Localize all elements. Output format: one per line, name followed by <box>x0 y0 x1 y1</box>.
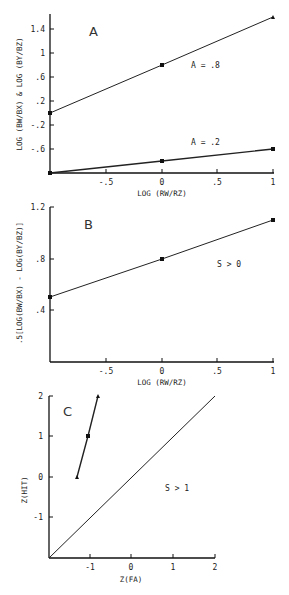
tick-label: 0 <box>160 178 165 187</box>
panel-b: 1.2 .8 .4 -.5 0 .5 1 LOG (RW/RZ) .5[LOG(… <box>15 203 276 387</box>
panel-a: 1.4 1 .6 .2 -.2 -.6 -.5 0 .5 1 LOG (RW/R… <box>15 14 276 198</box>
tick-label: 1.2 <box>31 203 46 212</box>
panel-c-x-label: Z(FA) <box>120 575 143 584</box>
data-point <box>271 218 275 222</box>
tick-label: 1.4 <box>31 25 46 34</box>
label-s-gt-1: S > 1 <box>165 484 189 493</box>
tick-label: .2 <box>35 97 45 106</box>
tick-label: -.2 <box>31 121 46 130</box>
tick-label: 1 <box>38 432 43 441</box>
tick-label: -.5 <box>99 178 114 187</box>
label-s-gt-0: S > 0 <box>217 260 241 269</box>
data-point <box>160 63 164 67</box>
panel-a-y-label: LOG (BW/BX) & LOG (BY/BZ) <box>15 38 24 151</box>
tick-label: 0 <box>129 563 134 572</box>
figure: 1.4 1 .6 .2 -.2 -.6 -.5 0 .5 1 LOG (RW/R… <box>0 0 289 595</box>
tick-label: 1 <box>271 367 276 376</box>
panel-b-x-ticks: -.5 0 .5 1 <box>99 358 276 376</box>
data-point <box>48 171 52 175</box>
data-point <box>86 434 90 438</box>
data-point <box>160 257 164 261</box>
tick-label: 1 <box>40 49 45 58</box>
tick-label: 2 <box>213 563 218 572</box>
data-point <box>160 159 164 163</box>
tick-label: .4 <box>35 306 45 315</box>
tick-label: 1 <box>171 563 176 572</box>
data-point <box>96 394 100 398</box>
data-point <box>271 147 275 151</box>
tick-label: .8 <box>35 255 45 264</box>
data-point <box>48 111 52 115</box>
tick-label: -1 <box>33 513 43 522</box>
panel-b-x-label: LOG (RW/RZ) <box>137 378 187 387</box>
panel-c-x-ticks: -1 0 1 2 <box>85 554 217 572</box>
tick-label: .5 <box>212 178 222 187</box>
data-point <box>48 295 52 299</box>
panel-a-letter: A <box>89 24 98 39</box>
tick-label: .5 <box>212 367 222 376</box>
tick-label: 1 <box>271 178 276 187</box>
label-a-0.2: A = .2 <box>191 138 220 147</box>
tick-label: -.5 <box>99 367 114 376</box>
tick-label: 0 <box>38 473 43 482</box>
panel-c-letter: C <box>63 404 72 419</box>
tick-label: 0 <box>160 367 165 376</box>
panel-b-letter: B <box>84 217 93 232</box>
panel-c: 2 1 0 -1 -1 0 1 2 Z(FA) Z(HIT) C S > 1 <box>20 392 218 584</box>
data-point <box>271 15 275 19</box>
chance-diagonal-line <box>49 396 215 558</box>
tick-label: -.6 <box>31 145 46 154</box>
tick-label: .6 <box>35 73 45 82</box>
panel-c-y-label: Z(HIT) <box>20 476 29 503</box>
tick-label: 2 <box>38 392 43 401</box>
panel-b-y-label: .5[LOG(BW/BX) - LOG(BY/BZ)] <box>15 222 24 344</box>
tick-label: -1 <box>85 563 95 572</box>
data-point <box>75 475 79 479</box>
panel-a-x-label: LOG (RW/RZ) <box>137 189 187 198</box>
panel-a-x-ticks: -.5 0 .5 1 <box>99 169 276 187</box>
panel-c-y-ticks: 2 1 0 -1 <box>33 392 53 522</box>
label-a-0.8: A = .8 <box>191 61 220 70</box>
